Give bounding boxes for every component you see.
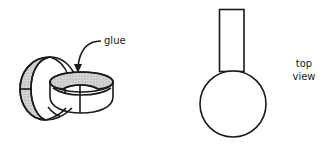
glue-arrow: [74, 41, 101, 73]
top-view-label-line2: view: [291, 70, 317, 83]
top-view-circle: [200, 71, 266, 137]
front-ring: [50, 72, 113, 113]
glue-label: glue: [104, 34, 126, 47]
top-view-strip: [220, 10, 245, 72]
top-view-label-line1: top: [291, 57, 317, 70]
diagram-canvas: [0, 0, 329, 145]
top-view-label: top view: [291, 57, 317, 83]
top-view-figure: [200, 10, 266, 138]
